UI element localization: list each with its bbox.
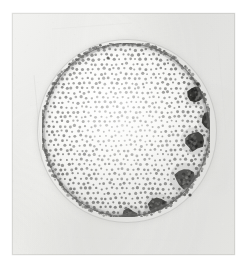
photographic-print	[12, 13, 235, 255]
figure-root: Black and white photomicrograph of a sph…	[0, 0, 249, 269]
dark-speck-1	[196, 82, 200, 86]
dark-speck-3	[107, 57, 110, 60]
dark-speck-2	[188, 193, 191, 196]
debris-speck-layer	[12, 13, 235, 255]
